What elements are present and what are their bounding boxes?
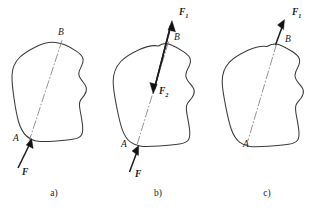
caption-panel-b: b) <box>104 188 212 198</box>
force-f2-arrowhead-b <box>150 83 157 94</box>
label-point-a-b: A <box>121 140 127 150</box>
label-point-b-b: B <box>174 33 180 43</box>
label-force-f1-sub-c: 1 <box>298 12 301 19</box>
label-point-b-c: B <box>285 35 291 45</box>
label-force-f-a: F <box>22 168 28 178</box>
rigid-body-outline-b <box>113 44 194 147</box>
panel-a-drawing <box>0 0 108 185</box>
rigid-body-outline-c <box>222 44 303 147</box>
panel-c: F1 B A c) <box>213 0 321 210</box>
panel-a: B A F a) <box>0 0 108 210</box>
panel-c-drawing <box>213 0 321 185</box>
label-force-f2-b: F2 <box>159 87 169 98</box>
label-force-f-b: F <box>135 170 141 180</box>
label-point-a-a: A <box>13 134 19 144</box>
caption-panel-a: a) <box>0 188 108 198</box>
label-point-a-c: A <box>243 140 249 150</box>
panel-b-drawing <box>104 0 212 185</box>
caption-panel-c: c) <box>213 188 321 198</box>
label-force-f2-sub-b: 2 <box>165 91 168 98</box>
label-force-f1-sub-b: 1 <box>185 12 188 19</box>
line-of-action-c <box>248 44 277 141</box>
rigid-body-outline-a <box>12 42 87 141</box>
label-force-f1-c: F1 <box>292 8 302 19</box>
label-force-f1-b: F1 <box>179 8 189 19</box>
line-of-action-a <box>30 41 63 141</box>
label-point-b-a: B <box>58 28 64 38</box>
force-f-shaft-a <box>18 144 30 169</box>
force-f2-shaft-b <box>155 29 171 89</box>
panel-b: F1 B F2 A F b) <box>104 0 212 210</box>
force-transmission-figure: B A F a) F1 B F2 A F b) <box>0 0 324 210</box>
